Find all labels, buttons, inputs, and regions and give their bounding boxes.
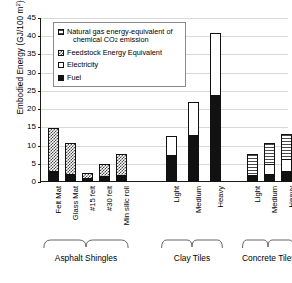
bar-7 bbox=[210, 33, 221, 181]
x-tick-label-9: Medium bbox=[271, 186, 279, 244]
x-tick-label-6: Medium bbox=[195, 186, 203, 244]
bar-segment-elec bbox=[281, 159, 292, 172]
y-axis-tickmark bbox=[38, 36, 41, 37]
chart-legend: Natural gas energy-equivalent ofchemical… bbox=[53, 22, 186, 87]
legend-item-electricity: Electricity bbox=[58, 61, 181, 69]
legend-label-natural-gas: Natural gas energy-equivalent ofchemical… bbox=[67, 28, 172, 45]
x-tick-label-2: #15 felt bbox=[89, 186, 97, 244]
bar-segment-elec bbox=[188, 102, 199, 137]
y-axis-tickmark bbox=[38, 146, 41, 147]
y-axis-tick-label: 15 bbox=[19, 123, 36, 131]
x-tick-label-4: Min silic roll bbox=[123, 186, 131, 244]
legend-label-feedstock: Feedstock Energy Equivalent bbox=[67, 49, 162, 57]
legend-item-natural-gas: Natural gas energy-equivalent ofchemical… bbox=[58, 28, 181, 45]
legend-swatch-natural-gas bbox=[58, 29, 64, 35]
bar-segment-fuel bbox=[82, 178, 93, 182]
gridline bbox=[41, 109, 288, 110]
y-axis-tick-label: 30 bbox=[19, 69, 36, 77]
bar-segment-ngas bbox=[281, 134, 292, 160]
brace-0 bbox=[43, 238, 129, 249]
gridline bbox=[41, 91, 288, 92]
bar-segment-elec bbox=[210, 33, 221, 95]
y-axis-tickmark bbox=[38, 73, 41, 74]
bar-8 bbox=[247, 154, 258, 181]
legend-label-electricity: Electricity bbox=[67, 61, 98, 69]
bar-segment-fuel bbox=[247, 175, 258, 182]
bar-segment-ngas bbox=[247, 154, 258, 176]
bar-segment-feed bbox=[65, 143, 76, 175]
x-tick-label-1: Glass Mat bbox=[72, 186, 80, 244]
y-axis-tickmark bbox=[38, 164, 41, 165]
bar-0 bbox=[48, 128, 59, 181]
group-label-1: Clay Tiles bbox=[161, 253, 223, 263]
gridline bbox=[41, 146, 288, 147]
legend-swatch-fuel bbox=[58, 75, 64, 81]
x-tick-label-0: Felt Mat bbox=[55, 186, 63, 244]
brace-2 bbox=[242, 238, 292, 249]
y-axis-tick-label: 40 bbox=[19, 32, 36, 40]
bar-segment-fuel bbox=[116, 175, 127, 182]
bar-segment-elec bbox=[166, 136, 177, 156]
bar-segment-feed bbox=[116, 154, 127, 176]
legend-swatch-feedstock bbox=[58, 50, 64, 56]
x-tick-label-5: Light bbox=[173, 186, 181, 244]
bar-segment-fuel bbox=[166, 155, 177, 182]
y-axis-tick-label: 45 bbox=[19, 14, 36, 22]
y-axis-tickmark bbox=[38, 91, 41, 92]
x-tick-label-7: Heavy bbox=[217, 186, 225, 244]
y-axis-tick-label: 35 bbox=[19, 50, 36, 58]
x-tick-label-10: Heavy bbox=[288, 186, 292, 244]
gridline bbox=[41, 18, 288, 19]
bar-segment-fuel bbox=[188, 135, 199, 182]
bar-10 bbox=[281, 134, 292, 181]
embodied-energy-bar-chart: Embodied Energy (GJ/100 m2) 051015202530… bbox=[0, 0, 292, 283]
bar-segment-fuel bbox=[48, 171, 59, 182]
bar-4 bbox=[116, 154, 127, 181]
bar-segment-feed bbox=[48, 128, 59, 172]
bar-segment-fuel bbox=[264, 174, 275, 182]
y-axis-tick-label: 20 bbox=[19, 105, 36, 113]
bar-segment-ngas bbox=[264, 143, 275, 165]
group-label-2: Concrete Tiles bbox=[242, 253, 292, 263]
x-tick-label-3: #30 felt bbox=[106, 186, 114, 244]
bar-segment-feed bbox=[99, 164, 110, 177]
brace-1 bbox=[161, 238, 223, 249]
bar-segment-fuel bbox=[99, 176, 110, 182]
y-axis-tickmark bbox=[38, 109, 41, 110]
y-axis-tickmark bbox=[38, 54, 41, 55]
y-axis-tick-label: 10 bbox=[19, 142, 36, 150]
gridline bbox=[41, 127, 288, 128]
bar-2 bbox=[82, 173, 93, 181]
legend-item-fuel: Fuel bbox=[58, 74, 181, 82]
y-axis-tickmark bbox=[38, 18, 41, 19]
x-tick-label-8: Light bbox=[254, 186, 262, 244]
bar-9 bbox=[264, 143, 275, 181]
y-axis-tickmark bbox=[38, 127, 41, 128]
bar-5 bbox=[166, 136, 177, 181]
bar-1 bbox=[65, 143, 76, 181]
bar-3 bbox=[99, 164, 110, 181]
bar-segment-fuel bbox=[210, 95, 221, 182]
bar-segment-fuel bbox=[281, 171, 292, 182]
y-axis-tickmark bbox=[38, 182, 41, 183]
legend-item-feedstock: Feedstock Energy Equivalent bbox=[58, 49, 181, 57]
legend-swatch-electricity bbox=[58, 62, 64, 68]
legend-label-fuel: Fuel bbox=[67, 74, 81, 82]
y-axis-tick-label: 0 bbox=[19, 178, 36, 186]
y-axis-tick-label: 25 bbox=[19, 87, 36, 95]
group-label-0: Asphalt Shingles bbox=[43, 253, 129, 263]
y-axis-tick-label: 5 bbox=[19, 160, 36, 168]
bar-segment-fuel bbox=[65, 174, 76, 182]
bar-6 bbox=[188, 102, 199, 181]
